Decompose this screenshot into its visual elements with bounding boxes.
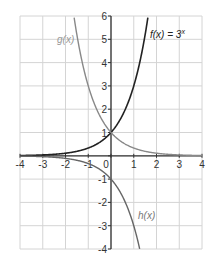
x-tick-label: -3	[38, 159, 47, 170]
curve-g	[74, 18, 202, 156]
y-tick-label: 4	[101, 58, 107, 69]
label-h: h(x)	[138, 210, 155, 221]
x-tick-label: -2	[61, 159, 70, 170]
x-tick-label: 1	[131, 159, 137, 170]
y-tick-label: 3	[101, 81, 107, 92]
label-f: f(x) = 3x	[150, 28, 185, 40]
y-tick-label: 6	[101, 11, 107, 22]
x-tick-label: 0	[103, 159, 109, 170]
x-tick-label: 3	[176, 159, 182, 170]
label-g: g(x)	[57, 34, 74, 45]
y-tick-label: -1	[98, 174, 107, 185]
y-tick-label: 5	[101, 34, 107, 45]
exponential-functions-chart: -4-3-2-101234654321-1-2-3-4 g(x) f(x) = …	[0, 0, 215, 264]
x-tick-label: 2	[154, 159, 160, 170]
y-tick-label: -2	[98, 197, 107, 208]
x-tick-label: -4	[16, 159, 25, 170]
label-f-exponent: x	[180, 28, 185, 35]
label-f-text: f(x) = 3	[150, 29, 182, 40]
chart-canvas: -4-3-2-101234654321-1-2-3-4 g(x) f(x) = …	[0, 0, 215, 264]
y-tick-label: -3	[98, 221, 107, 232]
curve-f	[20, 18, 148, 156]
x-tick-label: 4	[199, 159, 205, 170]
curve-labels: g(x) f(x) = 3x h(x)	[57, 28, 185, 221]
y-tick-label: -4	[98, 244, 107, 255]
y-tick-label: 2	[101, 104, 107, 115]
